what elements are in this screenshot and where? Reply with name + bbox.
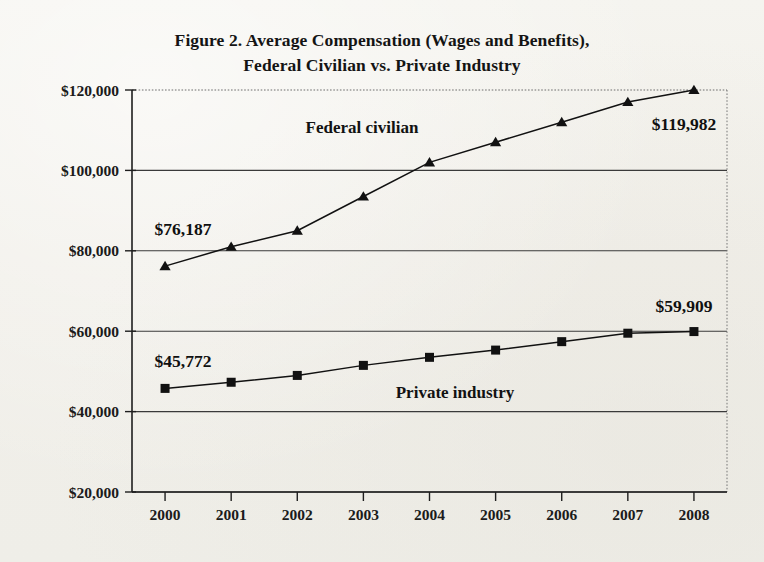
value-label-private-first: $45,772 — [155, 351, 212, 371]
x-axis-tick-label: 2005 — [480, 506, 511, 523]
value-label-private-last: $59,909 — [656, 296, 713, 316]
data-point-marker — [293, 371, 302, 380]
line-chart-svg: $20,000$40,000$60,000$80,000$100,000$120… — [0, 0, 764, 562]
tick-marks-group — [125, 90, 694, 501]
data-point-marker — [491, 346, 500, 355]
y-axis-tick-label: $100,000 — [61, 162, 119, 179]
data-point-marker — [688, 85, 699, 94]
data-point-marker — [358, 191, 369, 200]
series-label-federal: Federal civilian — [306, 118, 419, 137]
x-axis-tick-label: 2001 — [216, 506, 247, 523]
x-axis-tick-labels: 200020012002200320042005200620072008 — [150, 506, 710, 523]
data-point-marker — [161, 384, 170, 393]
y-axis-tick-label: $40,000 — [69, 403, 120, 420]
x-axis-tick-label: 2002 — [282, 506, 313, 523]
data-point-marker — [292, 225, 303, 234]
data-point-marker — [689, 327, 698, 336]
y-axis-tick-label: $120,000 — [61, 82, 119, 99]
data-point-marker — [359, 361, 368, 370]
gridlines-group — [132, 90, 727, 492]
data-point-marker — [227, 378, 236, 387]
x-axis-tick-label: 2007 — [612, 506, 643, 523]
y-axis-tick-label: $80,000 — [69, 242, 120, 259]
annotations-group: $76,187$119,982$45,772$59,909Federal civ… — [155, 114, 717, 402]
chart-figure: $20,000$40,000$60,000$80,000$100,000$120… — [0, 0, 764, 562]
y-axis-tick-labels: $20,000$40,000$60,000$80,000$100,000$120… — [61, 82, 119, 501]
data-point-marker — [557, 337, 566, 346]
value-label-federal-first: $76,187 — [155, 219, 212, 239]
x-axis-tick-label: 2006 — [546, 506, 577, 523]
series-label-private: Private industry — [396, 383, 515, 402]
x-axis-tick-label: 2008 — [678, 506, 709, 523]
value-label-federal-last: $119,982 — [652, 114, 717, 134]
y-axis-tick-label: $60,000 — [69, 323, 120, 340]
x-axis-tick-label: 2004 — [414, 506, 445, 523]
data-point-marker — [425, 353, 434, 362]
data-series-group — [159, 85, 699, 393]
x-axis-tick-label: 2000 — [150, 506, 181, 523]
y-axis-tick-label: $20,000 — [69, 484, 120, 501]
x-axis-tick-label: 2003 — [348, 506, 379, 523]
data-point-marker — [623, 329, 632, 338]
series-line-federal-civilian — [165, 90, 694, 266]
axes-group — [132, 90, 727, 492]
